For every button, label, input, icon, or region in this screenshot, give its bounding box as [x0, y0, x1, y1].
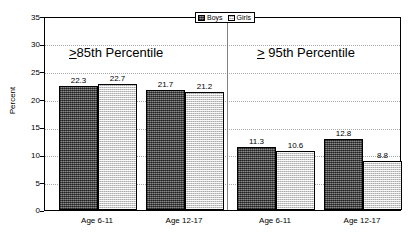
- x-tick-label-p95-age12-17: Age 12-17: [344, 216, 381, 225]
- bar-p85-age12-17-boys: 21.7: [146, 90, 185, 210]
- panel-title-85th: >85th Percentile: [69, 45, 163, 60]
- bar-p85-age6-11-girls: 22.7: [98, 84, 137, 210]
- bar-value-label: 11.3: [249, 137, 264, 146]
- y-tick-label-35: 35: [10, 14, 40, 22]
- legend-entry-boys: Boys: [198, 14, 223, 21]
- y-tick-mark-0: [40, 211, 44, 212]
- bar-value-label: 12.8: [336, 129, 352, 138]
- panel-title-95th: > 95th Percentile: [257, 45, 355, 60]
- panel-divider: [227, 18, 228, 210]
- panel-title-95th-text: 95th Percentile: [265, 45, 355, 60]
- bar-chart: Percent 35 30 25 20 15 10 5 0 >85th Perc…: [0, 0, 415, 241]
- light-dither-swatch-icon: [228, 15, 235, 21]
- gridline-25: [45, 73, 400, 74]
- plot-area: >85th Percentile > 95th Percentile 22.3 …: [44, 17, 401, 211]
- y-tick-label-10: 10: [10, 152, 40, 160]
- bar-p85-age6-11-boys: 22.3: [59, 86, 98, 210]
- greater-equal-glyph: >: [69, 45, 77, 60]
- bar-p95-age12-17-boys: 12.8: [324, 139, 363, 210]
- bar-value-label: 8.8: [377, 151, 388, 160]
- bar-p85-age12-17-girls: 21.2: [185, 92, 224, 210]
- bar-value-label: 21.2: [197, 82, 213, 91]
- bar-p95-age6-11-girls: 10.6: [276, 151, 315, 210]
- y-tick-label-0: 0: [10, 207, 40, 215]
- bar-p95-age12-17-girls: 8.8: [363, 161, 402, 210]
- legend: Boys Girls: [195, 12, 255, 23]
- greater-equal-glyph: >: [257, 45, 265, 60]
- bar-value-label: 21.7: [158, 80, 174, 89]
- y-tick-label-5: 5: [10, 180, 40, 188]
- bar-value-label: 22.3: [71, 76, 87, 85]
- panel-title-85th-text: 85th Percentile: [77, 45, 164, 60]
- x-tick-label-p95-age6-11: Age 6-11: [259, 216, 291, 225]
- y-tick-label-30: 30: [10, 41, 40, 49]
- y-tick-label-25: 25: [10, 69, 40, 77]
- bar-value-label: 10.6: [288, 141, 304, 150]
- x-tick-label-p85-age12-17: Age 12-17: [166, 216, 203, 225]
- dark-dither-swatch-icon: [198, 15, 205, 21]
- y-tick-label-20: 20: [10, 97, 40, 105]
- bar-p95-age6-11-boys: 11.3: [237, 147, 276, 210]
- bar-value-label: 22.7: [110, 74, 126, 83]
- x-tick-label-p85-age6-11: Age 6-11: [81, 216, 113, 225]
- y-tick-label-15: 15: [10, 124, 40, 132]
- legend-label-girls: Girls: [237, 14, 251, 21]
- legend-label-boys: Boys: [207, 14, 223, 21]
- legend-entry-girls: Girls: [228, 14, 251, 21]
